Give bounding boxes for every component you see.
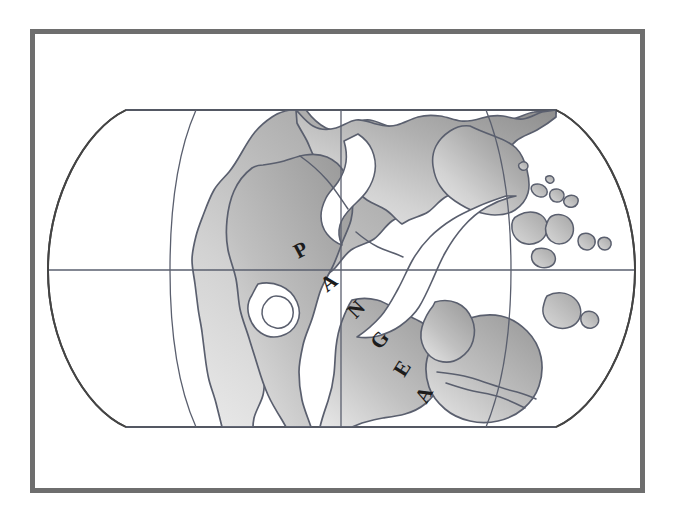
island-8 — [532, 248, 556, 268]
island-dot-2 — [546, 176, 554, 184]
west-inlet — [262, 296, 293, 328]
island-se-1 — [543, 293, 581, 329]
globe-group: PANGEA — [48, 110, 635, 427]
island-7 — [598, 237, 611, 250]
island-5 — [546, 215, 574, 244]
figure-page: PANGEA PANGEA — [0, 0, 681, 521]
island-6 — [578, 233, 595, 250]
island-3 — [564, 195, 579, 207]
island-2 — [550, 189, 564, 202]
pangea-map: PANGEA — [0, 0, 681, 521]
island-se-2 — [581, 311, 599, 328]
island-dot-1 — [519, 162, 528, 171]
island-4 — [512, 212, 548, 244]
